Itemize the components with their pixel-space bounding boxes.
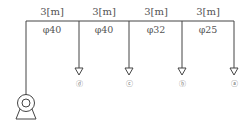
outlet-b-triangle-icon [178,68,186,75]
length-label-1: 3[m] [40,6,64,17]
outlet-c-triangle-icon [125,68,133,75]
outlet-label-d: ⓓ [76,80,83,88]
outlet-label-a: ⓐ [231,80,238,88]
diameter-label-4: φ25 [199,24,218,35]
length-label-3: 3[m] [144,6,168,17]
outlet-d-triangle-icon [75,68,83,75]
pipe-diagram: 3[m] 3[m] 3[m] 3[m] φ40 φ40 φ32 φ25 ⓓ ⓒ … [0,0,250,126]
diameter-label-1: φ40 [43,24,62,35]
outlet-label-b: ⓑ [179,80,186,88]
outlet-a-triangle-icon [230,68,238,75]
pump-icon [16,95,36,120]
diameter-label-2: φ40 [95,24,114,35]
length-label-4: 3[m] [196,6,220,17]
outlet-label-c: ⓒ [126,80,133,88]
diameter-label-3: φ32 [147,24,166,35]
length-label-2: 3[m] [92,6,116,17]
